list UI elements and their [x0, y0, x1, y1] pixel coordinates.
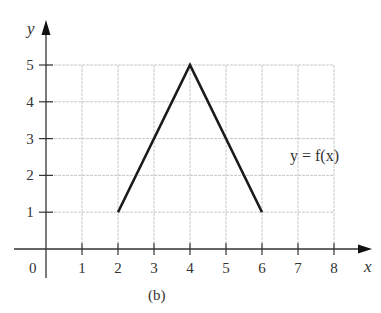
figure-caption: (b) — [148, 287, 166, 304]
y-axis-arrow-icon — [42, 20, 51, 35]
origin-label: 0 — [29, 260, 37, 276]
x-tick-label: 1 — [78, 260, 86, 276]
y-tick-label: 2 — [26, 167, 34, 183]
y-axis-label: y — [25, 19, 35, 38]
curve-label: y = f(x) — [290, 147, 339, 165]
x-tick-label: 4 — [186, 260, 194, 276]
x-tick-label: 7 — [294, 260, 302, 276]
x-axis-arrow-icon — [358, 245, 372, 254]
y-tick-label: 1 — [26, 204, 34, 220]
x-tick-label: 2 — [114, 260, 122, 276]
y-tick-label: 5 — [26, 57, 34, 73]
y-tick-label: 3 — [26, 131, 34, 147]
x-tick-label: 6 — [258, 260, 266, 276]
function-graph: 1234567812345 y x 0 y = f(x) (b) — [0, 0, 381, 313]
x-tick-label: 5 — [222, 260, 230, 276]
x-axis-label: x — [363, 257, 372, 276]
x-tick-label: 8 — [330, 260, 338, 276]
axis-ticks: 1234567812345 — [26, 57, 338, 276]
y-tick-label: 4 — [26, 94, 34, 110]
x-tick-label: 3 — [150, 260, 158, 276]
